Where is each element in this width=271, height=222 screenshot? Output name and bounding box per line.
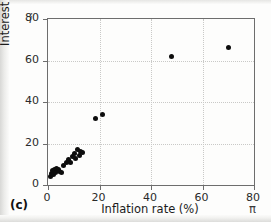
x-tick-mark [254,185,255,190]
y-tick-mark [43,19,48,20]
scatter-point [68,160,73,165]
y-axis-title: Interest rate (%) [0,0,12,46]
y-tick-label: 40 [25,95,39,106]
gridline-vertical [100,19,101,185]
panel-label: (c) [10,198,28,212]
x-tick-label: 40 [135,192,165,203]
gridline-vertical [203,19,204,185]
scatter-point [100,112,105,117]
x-tick-label: 60 [187,192,217,203]
scatter-point [80,150,85,155]
scatter-point [93,116,98,121]
y-tick-mark [43,102,48,103]
scatter-point [226,45,231,50]
scatter-point [169,54,174,59]
x-tick-mark [100,185,101,190]
scan-edge-bottom [0,215,271,222]
y-tick-mark [43,61,48,62]
x-tick-mark [203,185,204,190]
x-tick-label: 20 [84,192,114,203]
x-tick-label: 0 [32,192,62,203]
gridline-vertical [151,19,152,185]
scatter-chart-figure: i π (c) Interest rate (%) Inflation rate… [0,0,271,222]
y-tick-label: 20 [25,137,39,148]
x-axis-title: Inflation rate (%) [47,202,253,216]
x-tick-label: 80 [238,192,268,203]
y-tick-label: 80 [25,12,39,23]
x-tick-mark [48,185,49,190]
scatter-point [59,170,64,175]
x-tick-mark [151,185,152,190]
y-tick-label: 0 [32,178,39,189]
y-tick-label: 60 [25,54,39,65]
plot-area [47,18,255,186]
y-tick-mark [43,144,48,145]
scan-edge-top [0,0,271,4]
